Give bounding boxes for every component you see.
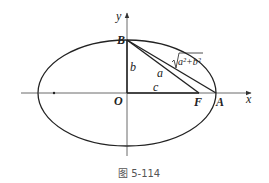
segment-c-label: c: [153, 80, 159, 94]
figure-caption: 图 5-114: [118, 168, 160, 179]
segment-ba-label: a²+b²: [172, 53, 203, 68]
point-o-label: O: [114, 94, 123, 108]
point-b-label: B: [116, 33, 125, 47]
segment-ba: [127, 40, 216, 93]
x-axis-label: x: [245, 92, 252, 106]
ellipse-diagram: y x B O F A b c a a²+b² 图 5-114: [0, 0, 269, 183]
sqrt-radicand: a²+b²: [178, 56, 202, 67]
segment-a-label: a: [157, 66, 163, 80]
point-f-label: F: [193, 95, 202, 109]
point-a-label: A: [215, 95, 224, 109]
y-axis-label: y: [115, 9, 122, 23]
segment-b-label: b: [130, 60, 136, 74]
left-focus-dot: [53, 92, 55, 94]
